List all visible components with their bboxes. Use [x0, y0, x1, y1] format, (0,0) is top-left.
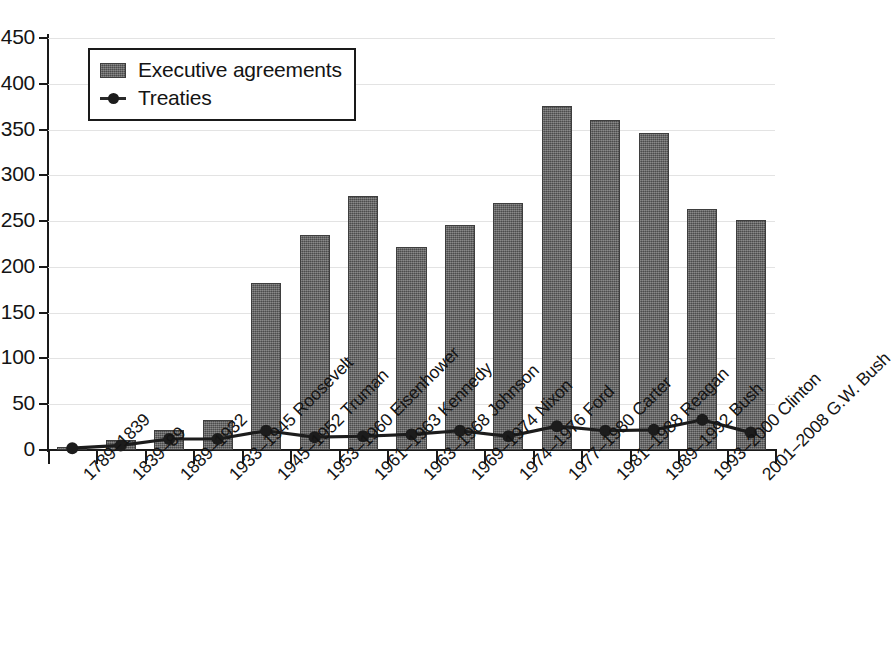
y-tick-label: 0: [24, 437, 35, 461]
x-tick-mark: [145, 451, 147, 464]
treaties-data-point[interactable]: 1889–1932: 12: [163, 433, 175, 445]
y-tick-label: 200: [1, 254, 35, 278]
x-tick-mark: [678, 451, 680, 464]
x-tick-mark: [533, 451, 535, 464]
legend-item-executive-agreements: Executive agreements: [100, 56, 342, 84]
x-tick-mark: [630, 451, 632, 464]
x-tick-mark: [290, 451, 292, 464]
treaties-data-point[interactable]: 1789–1839: 2: [66, 442, 78, 454]
x-tick-mark: [775, 451, 777, 464]
x-tick-mark: [436, 451, 438, 464]
treaties-data-point[interactable]: 1945–1952 Truman: 21: [260, 425, 272, 437]
legend-label-treaties: Treaties: [138, 86, 211, 110]
y-tick-label: 50: [12, 391, 35, 415]
y-tick-mark: [39, 357, 48, 359]
y-tick-mark: [39, 83, 48, 85]
y-tick-mark: [39, 266, 48, 268]
x-axis-label: 2001–2008 G.W. Bush: [758, 348, 894, 485]
treaties-data-point[interactable]: 1977–1980 Carter: 26: [551, 420, 563, 432]
treaties-data-point[interactable]: 1961–1963 Kennedy: 15: [357, 430, 369, 442]
y-tick-label: 400: [1, 71, 35, 95]
x-tick-mark: [242, 451, 244, 464]
treaties-data-point[interactable]: 1993–2000 Clinton: 33: [696, 414, 708, 426]
y-tick-label: 300: [1, 162, 35, 186]
y-tick-mark: [39, 129, 48, 131]
legend-label-executive-agreements: Executive agreements: [138, 58, 342, 82]
y-tick-label: 250: [1, 208, 35, 232]
legend-item-treaties: Treaties: [100, 84, 342, 112]
treaties-data-point[interactable]: 1989–1992 Bush: 22: [648, 424, 660, 436]
x-tick-mark: [48, 451, 50, 464]
treaties-data-point[interactable]: 1981–1988 Reagan: 21: [599, 425, 611, 437]
line-marker-icon: [100, 91, 126, 106]
y-tick-mark: [39, 312, 48, 314]
x-tick-mark: [96, 451, 98, 464]
treaties-data-point[interactable]: 1974–1976 Ford: 15: [502, 430, 514, 442]
x-tick-mark: [727, 451, 729, 464]
bar-swatch-icon: [100, 63, 126, 78]
treaties-data-point[interactable]: 1953–1960 Eisenhower: 14: [309, 431, 321, 443]
x-tick-mark: [339, 451, 341, 464]
y-tick-mark: [39, 174, 48, 176]
y-tick-label: 150: [1, 300, 35, 324]
y-tick-label: 450: [1, 25, 35, 49]
y-tick-mark: [39, 37, 48, 39]
treaties-data-point[interactable]: 1963–1968 Johnson: 17: [406, 428, 418, 440]
y-tick-mark: [39, 449, 48, 451]
x-tick-mark: [193, 451, 195, 464]
treaties-data-point[interactable]: 1969–1974 Nixon: 21: [454, 425, 466, 437]
treaties-data-point[interactable]: 1933–1945 Roosevelt: 12: [212, 433, 224, 445]
y-tick-mark: [39, 403, 48, 405]
y-tick-label: 350: [1, 117, 35, 141]
treaties-data-point[interactable]: 1839–89: 5: [115, 439, 127, 451]
y-tick-label: 100: [1, 345, 35, 369]
x-tick-mark: [387, 451, 389, 464]
treaties-data-point[interactable]: 2001–2008 G.W. Bush: 19: [745, 427, 757, 439]
y-tick-mark: [39, 220, 48, 222]
x-tick-mark: [484, 451, 486, 464]
chart-legend: Executive agreements Treaties: [88, 48, 356, 121]
x-tick-mark: [581, 451, 583, 464]
